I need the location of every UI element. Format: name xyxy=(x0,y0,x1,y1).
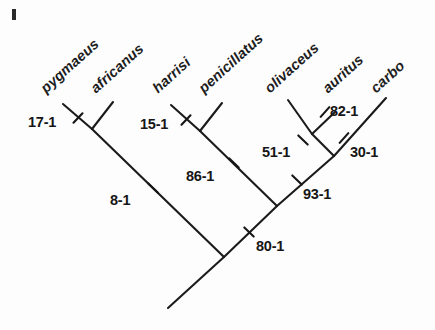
character-label-15-1: 15-1 xyxy=(140,116,168,132)
branch-clade-oli-aur xyxy=(312,134,334,156)
character-label-82-1: 82-1 xyxy=(330,103,358,119)
branch-olivaceus xyxy=(288,100,312,134)
branch-penicillatus xyxy=(200,103,222,131)
branch-pygmaeus xyxy=(63,104,92,129)
character-label-30-1: 30-1 xyxy=(350,144,378,160)
branch-africanus xyxy=(92,102,113,129)
branch-root xyxy=(168,257,224,308)
character-label-17-1: 17-1 xyxy=(28,114,56,130)
character-label-80-1: 80-1 xyxy=(256,238,284,254)
character-label-93-1: 93-1 xyxy=(303,186,331,202)
character-tick-51-1 xyxy=(298,135,307,144)
character-label-86-1: 86-1 xyxy=(186,168,214,184)
character-tick-86-1 xyxy=(229,158,238,167)
character-tick-8-1 xyxy=(148,183,157,192)
character-tick-93-1 xyxy=(292,175,301,184)
character-label-8-1: 8-1 xyxy=(110,192,130,208)
character-label-51-1: 51-1 xyxy=(262,144,290,160)
branch-harrisi xyxy=(171,105,200,131)
phylogenetic-tree-figure: pygmaeusafricanusharrisipenicillatusoliv… xyxy=(0,0,435,330)
character-tick-82-1 xyxy=(321,107,330,117)
tree-branches-canvas xyxy=(0,0,435,330)
